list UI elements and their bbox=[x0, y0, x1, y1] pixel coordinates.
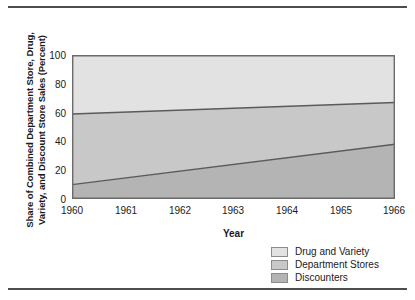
legend-swatch-discounters bbox=[271, 273, 288, 283]
y-tick-label-0: 0 bbox=[40, 195, 66, 205]
y-tick-label-100: 100 bbox=[40, 51, 66, 61]
bottom-rule bbox=[8, 288, 407, 290]
x-tick-label-1964: 1964 bbox=[267, 205, 307, 216]
legend-label-discounters: Discounters bbox=[295, 272, 348, 283]
x-tick-label-1961: 1961 bbox=[106, 205, 146, 216]
legend-item-department-stores: Department Stores bbox=[271, 258, 379, 271]
x-axis-title: Year bbox=[72, 228, 395, 239]
legend: Drug and Variety Department Stores Disco… bbox=[271, 245, 379, 284]
top-rule bbox=[8, 6, 407, 8]
y-tick-label-20: 20 bbox=[40, 166, 66, 176]
legend-item-drug-and-variety: Drug and Variety bbox=[271, 245, 379, 258]
legend-item-discounters: Discounters bbox=[271, 271, 379, 284]
x-tick-label-1962: 1962 bbox=[160, 205, 200, 216]
legend-swatch-department-stores bbox=[271, 260, 288, 270]
legend-swatch-drug-and-variety bbox=[271, 247, 288, 257]
x-tick-label-1966: 1966 bbox=[374, 205, 414, 216]
y-tick-label-60: 60 bbox=[40, 109, 66, 119]
x-tick-label-1960: 1960 bbox=[52, 205, 92, 216]
legend-label-department-stores: Department Stores bbox=[295, 259, 379, 270]
plot-area bbox=[72, 55, 395, 199]
y-axis-title-line1: Share of Combined Department Store, Drug… bbox=[24, 32, 35, 227]
legend-label-drug-and-variety: Drug and Variety bbox=[295, 246, 369, 257]
x-tick-label-1963: 1963 bbox=[213, 205, 253, 216]
figure: Share of Combined Department Store, Drug… bbox=[0, 0, 415, 300]
y-tick-label-40: 40 bbox=[40, 137, 66, 147]
y-tick-label-80: 80 bbox=[40, 80, 66, 90]
x-tick-label-1965: 1965 bbox=[321, 205, 361, 216]
